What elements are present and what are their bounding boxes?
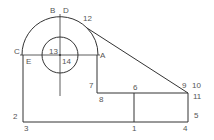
label-14: 14 [62,57,71,66]
label-7: 7 [89,81,94,90]
drawing-canvas: B D 12 C E 13 14 A 7 8 6 9 10 11 5 2 3 1… [0,0,214,140]
label-8: 8 [99,95,104,104]
label-11: 11 [193,92,202,101]
label-13: 13 [49,47,58,56]
label-D: D [63,6,69,15]
label-C: C [14,47,20,56]
label-E: E [26,57,31,66]
label-2: 2 [13,112,18,121]
label-A: A [100,51,106,60]
center-point [59,54,61,56]
label-B: B [50,6,55,15]
label-5: 5 [194,111,199,120]
label-12: 12 [83,14,92,23]
tangent-line [87,28,188,93]
label-3: 3 [24,124,29,133]
label-6: 6 [133,83,138,92]
label-1: 1 [132,124,137,133]
label-4: 4 [183,124,188,133]
label-9: 9 [182,81,187,90]
label-10: 10 [192,81,201,90]
